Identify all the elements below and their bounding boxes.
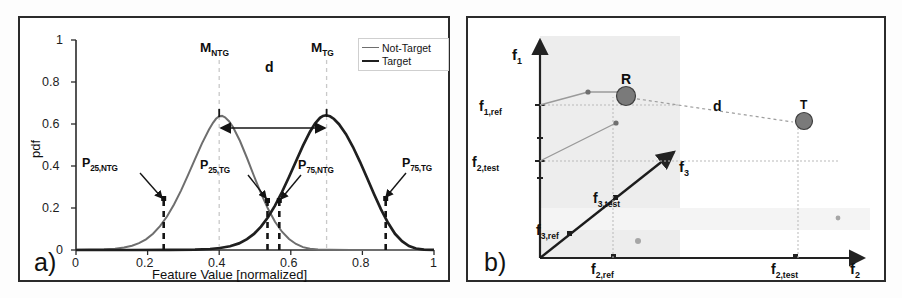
y-tick-0: 0 [56, 243, 63, 257]
x-axis-title: Feature Value [normalized] [152, 267, 307, 282]
f3-sub: 3 [684, 168, 689, 178]
panel-a-letter: a) [34, 250, 56, 275]
y-tick-02: 0.2 [42, 201, 59, 215]
tick-label-f2-ref-x: f2,ref [591, 261, 614, 280]
f1-ref-sub: 1,ref [484, 107, 502, 117]
y-tick-06: 0.6 [42, 117, 59, 131]
tick-label-f2-test-y: f2,test [472, 154, 499, 173]
panel-a: 0 0.2 0.4 0.6 0.8 1 0 0.2 0.4 0.6 0.8 1 … [18, 16, 450, 282]
tick-label-f3-test: f3,test [593, 190, 620, 209]
p75-tg-sub: 75,TG [410, 164, 432, 173]
label-p75-ntg: P75,NTG [298, 158, 334, 175]
legend-label-target: Target [382, 55, 411, 67]
axis-title-f2: f2 [850, 260, 860, 280]
curve-target [76, 115, 434, 250]
distance-label-a: d [265, 59, 274, 75]
f2-ref-x-sub: 2,ref [596, 270, 614, 280]
f3-test-sub: 3,test [598, 199, 620, 209]
distance-label-b: d [713, 98, 722, 114]
p75-ntg-sub: 75,NTG [306, 166, 333, 175]
label-p25-ntg: P25,NTG [82, 156, 118, 173]
f2-test-y-sub: 2,test [477, 163, 499, 173]
p75-ntg-base: P [298, 158, 306, 172]
f2-sub: 2 [855, 270, 860, 280]
x-tick-02: 0.2 [136, 256, 153, 270]
axis-title-f3: f3 [679, 158, 689, 178]
feature-space-svg [468, 18, 884, 280]
x-tick-1: 1 [430, 256, 437, 270]
p25-ntg-base: P [82, 156, 90, 170]
f1-sub: 1 [517, 56, 522, 66]
legend-swatch-target [362, 60, 379, 62]
y-tick-04: 0.4 [42, 159, 59, 173]
tick-label-f3-ref: f3,ref [536, 222, 559, 241]
mode-peak-ticks [219, 109, 326, 117]
y-tick-08: 0.8 [42, 75, 59, 89]
x-tick-08: 0.8 [352, 256, 369, 270]
legend-row-target: Target [362, 54, 444, 67]
point-marker-T[interactable] [796, 113, 813, 130]
axis-title-f1: f1 [512, 46, 522, 66]
p25-tg-sub: 25,TG [208, 166, 230, 175]
tick-label-f2-test-x: f2,test [771, 261, 798, 280]
f3-ref-sub: 3,ref [541, 231, 559, 241]
figure-container: 0 0.2 0.4 0.6 0.8 1 0 0.2 0.4 0.6 0.8 1 … [0, 0, 902, 298]
x-tick-0: 0 [72, 256, 79, 270]
legend-swatch-not-target [362, 47, 379, 48]
legend-panel-a: Not-Target Target [358, 38, 449, 71]
tick-label-f1-ref: f1,ref [479, 98, 502, 117]
p25-ntg-sub: 25,NTG [90, 164, 117, 173]
mode-tg-sub: TG [322, 48, 334, 58]
percentile-markers [161, 196, 388, 203]
p25-tg-base: P [200, 158, 208, 172]
mode-tg-base: M [311, 40, 322, 55]
mode-ntg-sub: NTG [211, 48, 229, 58]
f2-test-x-sub: 2,test [776, 270, 798, 280]
point-label-T: T [800, 98, 807, 112]
label-p25-tg: P25,TG [200, 158, 230, 175]
mode-label-tg: MTG [311, 40, 334, 58]
legend-row-not-target: Not-Target [362, 41, 444, 54]
y-tick-1: 1 [56, 33, 63, 47]
point-marker-R[interactable] [617, 87, 636, 106]
p75-tg-base: P [402, 156, 410, 170]
mode-label-ntg: MNTG [200, 40, 229, 58]
point-label-R: R [621, 71, 631, 87]
legend-label-not-target: Not-Target [382, 42, 431, 54]
panel-b: f1 f2 f3 f1,ref f2,test f3,test f3,ref f… [466, 16, 886, 282]
y-axis-title: pdf [28, 140, 43, 158]
panel-b-plot [468, 18, 884, 280]
panel-b-letter: b) [484, 250, 506, 275]
label-p75-tg: P75,TG [402, 156, 432, 173]
mode-ntg-base: M [200, 40, 211, 55]
